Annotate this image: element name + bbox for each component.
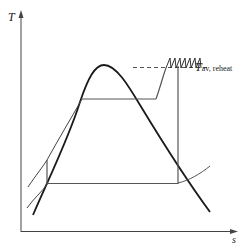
- tav-subscript: av, reheat: [202, 64, 233, 73]
- ts-diagram: [0, 0, 247, 245]
- axes: [19, 10, 239, 234]
- x-axis-label: s: [232, 234, 236, 245]
- liquid-line-upper: [28, 99, 82, 187]
- y-axis-arrow-icon: [19, 10, 24, 18]
- low-pressure-curve: [178, 166, 210, 183]
- y-axis-label: T: [8, 10, 15, 25]
- saturation-dome: [33, 65, 210, 215]
- reheat-average-temperature-label: Tav, reheat: [195, 60, 232, 75]
- superheat-curve: [156, 68, 166, 99]
- tav-symbol: T: [195, 60, 202, 74]
